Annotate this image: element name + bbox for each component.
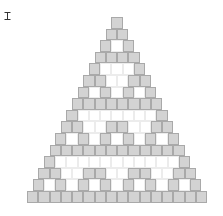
filled-block [168, 133, 179, 145]
filled-block [78, 179, 89, 191]
filled-block [106, 191, 117, 203]
empty-block [111, 133, 122, 145]
filled-block [61, 145, 72, 157]
filled-block [33, 179, 44, 191]
empty-block [134, 133, 145, 145]
filled-block [83, 98, 94, 110]
empty-block [95, 121, 106, 133]
filled-block [134, 63, 145, 75]
empty-block [89, 156, 100, 168]
empty-block [156, 133, 167, 145]
filled-block [89, 63, 100, 75]
filled-block [117, 98, 128, 110]
empty-block [140, 121, 151, 133]
filled-block [140, 191, 151, 203]
empty-block [78, 110, 89, 122]
filled-block [95, 52, 106, 64]
empty-block [106, 168, 117, 180]
filled-block [151, 191, 162, 203]
empty-block [134, 87, 145, 99]
filled-block [140, 75, 151, 87]
filled-block [117, 29, 128, 41]
filled-block [95, 145, 106, 157]
empty-block [162, 168, 173, 180]
filled-block [145, 87, 156, 99]
filled-block [140, 145, 151, 157]
filled-block [72, 121, 83, 133]
filled-block [72, 191, 83, 203]
filled-block [100, 133, 111, 145]
empty-block [44, 179, 55, 191]
empty-block [168, 156, 179, 168]
empty-block [134, 110, 145, 122]
filled-block [140, 168, 151, 180]
filled-block [55, 133, 66, 145]
filled-block [95, 168, 106, 180]
filled-block [123, 179, 134, 191]
filled-block [95, 75, 106, 87]
empty-block [151, 168, 162, 180]
filled-block [173, 145, 184, 157]
filled-block [83, 75, 94, 87]
empty-block [89, 179, 100, 191]
empty-block [66, 179, 77, 191]
empty-block [72, 168, 83, 180]
filled-block [173, 191, 184, 203]
empty-block [128, 121, 139, 133]
filled-block [117, 145, 128, 157]
empty-block [134, 179, 145, 191]
filled-block [128, 75, 139, 87]
empty-block [179, 179, 190, 191]
filled-block [123, 133, 134, 145]
filled-block [106, 145, 117, 157]
filled-block [156, 110, 167, 122]
empty-block [55, 156, 66, 168]
filled-block [123, 87, 134, 99]
filled-block [61, 191, 72, 203]
filled-block [151, 98, 162, 110]
filled-block [128, 98, 139, 110]
filled-block [168, 179, 179, 191]
filled-block [66, 110, 77, 122]
filled-block [100, 87, 111, 99]
empty-block [123, 110, 134, 122]
empty-block [156, 156, 167, 168]
filled-block [72, 145, 83, 157]
empty-block [100, 156, 111, 168]
empty-block [123, 63, 134, 75]
block-triangle-diagram [0, 0, 223, 216]
filled-block [44, 156, 55, 168]
filled-block [106, 98, 117, 110]
filled-block [50, 168, 61, 180]
empty-block [100, 63, 111, 75]
empty-block [123, 156, 134, 168]
empty-block [117, 75, 128, 87]
empty-block [89, 87, 100, 99]
filled-block [106, 29, 117, 41]
filled-block [190, 179, 201, 191]
filled-block [179, 156, 190, 168]
filled-block [162, 121, 173, 133]
empty-block [83, 121, 94, 133]
empty-block [66, 133, 77, 145]
empty-block [106, 75, 117, 87]
empty-block [111, 87, 122, 99]
empty-block [111, 63, 122, 75]
filled-block [123, 40, 134, 52]
filled-block [145, 179, 156, 191]
empty-block [111, 40, 122, 52]
filled-block [38, 168, 49, 180]
filled-block [95, 191, 106, 203]
filled-block [128, 52, 139, 64]
filled-block [27, 191, 38, 203]
filled-block [100, 179, 111, 191]
filled-block [185, 191, 196, 203]
empty-block [78, 156, 89, 168]
empty-block [145, 110, 156, 122]
filled-block [83, 168, 94, 180]
filled-block [185, 168, 196, 180]
empty-block [111, 110, 122, 122]
empty-block [117, 168, 128, 180]
filled-block [140, 98, 151, 110]
filled-block [50, 145, 61, 157]
